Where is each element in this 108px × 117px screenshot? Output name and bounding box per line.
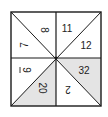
cell-bl-lower: 20 — [37, 82, 48, 94]
cell-tr-upper: 11 — [62, 23, 73, 34]
cell-br-lower: 2 — [65, 84, 71, 95]
cell-br-upper: 32 — [78, 65, 90, 76]
center-point — [55, 57, 58, 60]
cell-bl-upper: 9 — [21, 67, 32, 73]
cell-tl-upper: 8 — [39, 27, 50, 33]
number-square-diagram: 8 7 11 12 9 20 32 2 — [0, 0, 108, 117]
cell-bl-upper-group: 9 — [20, 67, 32, 73]
cell-tl-lower: 7 — [19, 42, 30, 48]
cell-tr-lower: 12 — [80, 40, 92, 51]
